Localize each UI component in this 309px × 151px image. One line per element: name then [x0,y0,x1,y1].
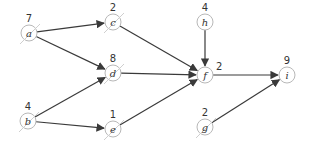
node-h: h4 [197,2,213,30]
node-weight: 2 [110,2,116,13]
node-weight: 1 [110,109,116,120]
edge-b-d [35,77,105,117]
node-weight: 4 [25,101,31,112]
edge-d-f [121,73,196,75]
node-label: a [26,28,32,39]
node-weight: 2 [202,107,208,118]
node-label: e [110,124,116,135]
node-c: c2 [104,2,124,33]
edge-e-f [120,80,197,125]
node-label: c [110,17,116,28]
node-label: i [285,70,288,81]
node-label: h [202,17,208,28]
node-weight: 4 [202,2,208,13]
node-label: d [110,68,116,79]
node-weight: 8 [110,53,116,64]
node-weight: 2 [216,61,222,72]
node-weight: 9 [284,55,290,66]
nodes: a7b4c2d8e1f2g2h4i9 [19,2,295,140]
node-a: a7 [20,13,40,44]
edge-a-c [37,23,104,32]
edge-a-d [36,36,105,69]
edges [35,23,279,128]
edge-g-i [212,80,280,123]
dependency-graph: a7b4c2d8e1f2g2h4i9 [0,0,309,151]
node-label: g [202,122,208,133]
node-label: b [25,116,31,127]
edge-b-e [36,122,104,128]
edge-c-f [120,26,197,71]
node-i: i9 [279,55,295,83]
node-weight: 7 [26,13,32,24]
node-d: d8 [104,53,124,84]
node-f: f2 [197,61,222,83]
